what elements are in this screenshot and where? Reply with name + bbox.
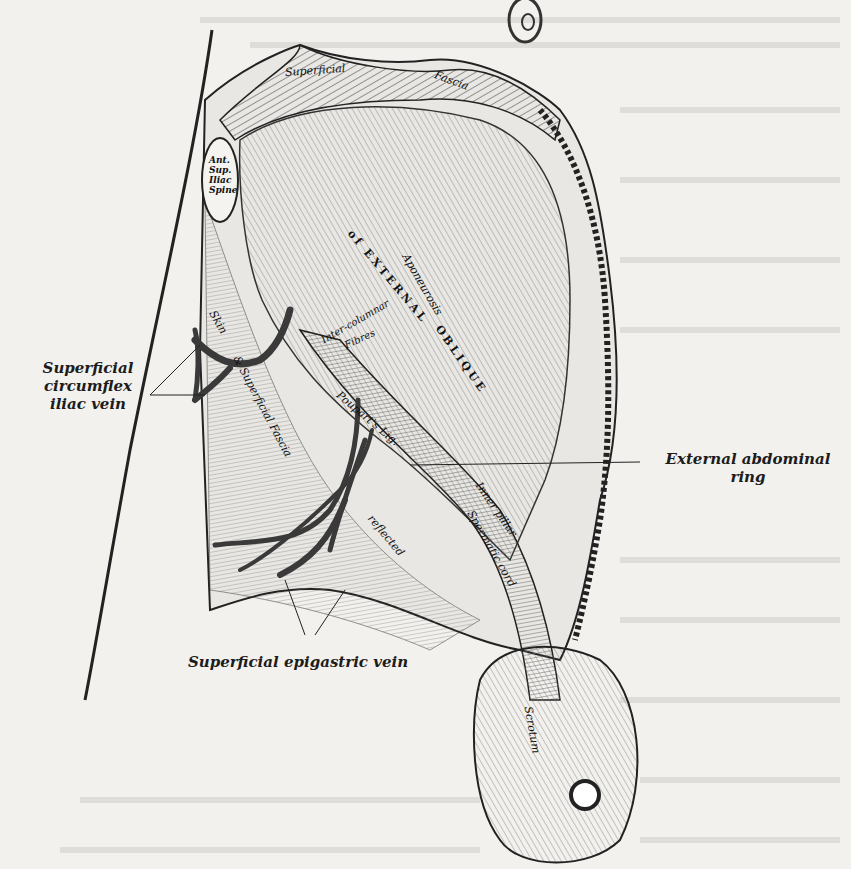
label-ant-sup-iliac-spine: Ant. Sup. Iliac Spine [209,155,237,195]
label-line: ring [648,468,848,486]
label-line: Ant. [209,155,237,165]
label-line: iliac vein [28,395,148,413]
scrotum [474,647,637,863]
anatomical-illustration [0,0,851,869]
label-superficial-circumflex-iliac-vein: Superficial circumflex iliac vein [28,359,148,413]
label-line: circumflex [28,377,148,395]
label-line: Superficial [28,359,148,377]
label-superficial-epigastric-vein: Superficial epigastric vein [178,653,418,671]
label-line: Iliac [209,175,237,185]
penis-opening [571,781,599,809]
label-line: Spine [209,185,237,195]
label-line: Sup. [209,165,237,175]
label-line: External abdominal [648,450,848,468]
label-external-abdominal-ring: External abdominal ring [648,450,848,486]
